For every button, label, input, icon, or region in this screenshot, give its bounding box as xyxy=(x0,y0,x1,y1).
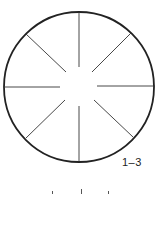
spoke-top-right xyxy=(92,33,131,72)
spoke-top-left xyxy=(26,34,66,72)
spoke-bottom-right xyxy=(94,100,133,137)
spoke-bottom-left xyxy=(26,100,65,138)
figure-label: 1–3 xyxy=(122,156,142,168)
bottom-marks xyxy=(52,189,109,194)
